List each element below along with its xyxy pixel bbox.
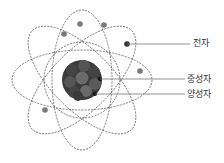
neutron-label: 중성자 — [187, 74, 211, 84]
electron-label: 전자 — [193, 38, 209, 48]
proton-label: 양성자 — [187, 89, 211, 99]
nucleus — [62, 60, 102, 101]
